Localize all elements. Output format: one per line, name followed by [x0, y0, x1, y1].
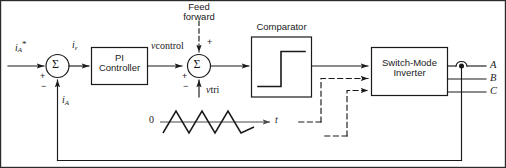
- summer1-sigma-glyph: Σ: [52, 58, 59, 71]
- feed-forward-line2: forward: [172, 12, 226, 22]
- pi-controller-line2: Controller: [92, 63, 148, 73]
- chart-time-axis-label: t: [275, 115, 278, 126]
- comparator-caption: Comparator: [252, 22, 312, 32]
- output-phase-b-label: B: [490, 72, 496, 83]
- output-phase-c-label: C: [490, 85, 497, 96]
- inverter-line2: Inverter: [372, 68, 448, 78]
- feed-forward-label: Feed forward: [172, 2, 226, 22]
- summer2-sigma-glyph: Σ: [194, 58, 201, 71]
- label-current-feedback: iA: [62, 95, 69, 107]
- summer1-minus-sign: −: [41, 82, 46, 91]
- pi-controller-label: PI Controller: [92, 53, 148, 73]
- control-block-diagram: iA* + Σ − iε iA PI Controller vcontrol F…: [0, 0, 506, 168]
- wire-to-inverter-b: [321, 79, 368, 123]
- output-phase-a-label: A: [490, 59, 496, 70]
- junction-dot-phase-a: [459, 64, 464, 69]
- chart-zero-label: 0: [149, 115, 154, 126]
- label-current-error: iε: [72, 40, 78, 52]
- label-v-control: vcontrol: [151, 41, 184, 52]
- label-current-reference: iA*: [15, 40, 27, 55]
- summer2-plus-top-sign: +: [207, 38, 212, 47]
- summer2-minus-sign: −: [183, 82, 188, 91]
- label-v-tri: vtri: [206, 85, 219, 96]
- wire-to-inverter-c: [347, 91, 368, 137]
- triangular-carrier-chart: [160, 111, 270, 133]
- inverter-label: Switch-Mode Inverter: [372, 58, 448, 78]
